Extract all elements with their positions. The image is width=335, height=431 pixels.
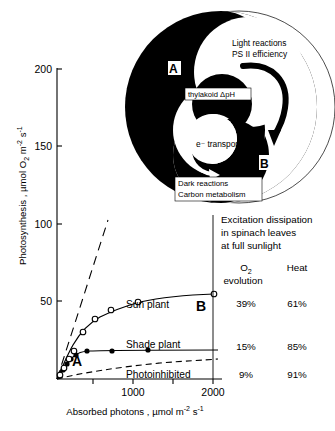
dark-reactions-badge: Dark reactions Carbon metabolism bbox=[175, 177, 262, 201]
thylakoid-badge: thylakoid ΔpH bbox=[185, 88, 251, 100]
figure-svg: Light reactions PS II efficiency A thyla… bbox=[0, 0, 335, 431]
data-point bbox=[80, 329, 86, 335]
point-a-label: A bbox=[72, 353, 82, 369]
y-ticklabel-150: 150 bbox=[34, 140, 52, 152]
light-reactions-line2: PS II efficiency bbox=[232, 49, 288, 59]
dark-reactions-line1: Dark reactions bbox=[178, 179, 228, 188]
figure-root: Light reactions PS II efficiency A thyla… bbox=[0, 0, 335, 431]
marker-b-label: B bbox=[260, 157, 269, 171]
marker-a-label: A bbox=[169, 62, 178, 76]
table-header-heat: Heat bbox=[287, 262, 308, 273]
table-header-evolution: evolution bbox=[223, 275, 262, 286]
light-reactions-line1: Light reactions bbox=[232, 38, 286, 48]
table-cell-heat-shade: 85% bbox=[287, 341, 307, 352]
y-ticklabel-50: 50 bbox=[40, 295, 52, 307]
e-transport-label: e⁻ transport bbox=[196, 139, 241, 149]
dark-reactions-line2: Carbon metabolism bbox=[178, 190, 246, 199]
table-caption-line3: at full sunlight bbox=[221, 240, 281, 251]
data-point bbox=[92, 316, 98, 322]
y-ticklabel-100: 100 bbox=[34, 218, 52, 230]
data-point bbox=[108, 307, 114, 313]
marker-b-diagram: B bbox=[259, 155, 272, 171]
y-ticklabel-200: 200 bbox=[34, 63, 52, 75]
table-cell-heat-photoinhibited: 91% bbox=[287, 369, 307, 380]
thylakoid-label: thylakoid ΔpH bbox=[188, 90, 235, 99]
x-axis-title: Absorbed photons , µmol m-2 s-1 bbox=[66, 405, 204, 417]
data-point bbox=[61, 365, 67, 371]
photoinhibited-annotation: Photoinhibited bbox=[126, 369, 191, 380]
table-cell-o2-shade: 15% bbox=[236, 341, 256, 352]
point-b-label: B bbox=[196, 298, 206, 314]
data-point bbox=[109, 348, 114, 353]
table-caption-line2: in spinach leaves bbox=[221, 227, 296, 238]
table-caption-line1: Excitation dissipation bbox=[221, 214, 313, 225]
marker-a-diagram: A bbox=[168, 61, 181, 76]
data-point bbox=[84, 348, 89, 353]
data-point bbox=[211, 291, 217, 297]
data-point bbox=[57, 372, 63, 378]
x-ticklabel-1000: 1000 bbox=[121, 386, 145, 398]
x-ticklabel-2000: 2000 bbox=[201, 386, 225, 398]
y-axis-title: Photosynthesis , µmol O2 m-2 s-1 bbox=[16, 126, 30, 265]
table-cell-o2-photoinhibited: 9% bbox=[239, 369, 253, 380]
table-cell-o2-sun: 39% bbox=[236, 298, 256, 309]
sun-plant-annotation: Sun plant bbox=[126, 299, 169, 310]
data-point bbox=[66, 356, 72, 362]
shade-plant-annotation: Shade plant bbox=[126, 339, 181, 350]
table-cell-heat-sun: 61% bbox=[287, 298, 307, 309]
